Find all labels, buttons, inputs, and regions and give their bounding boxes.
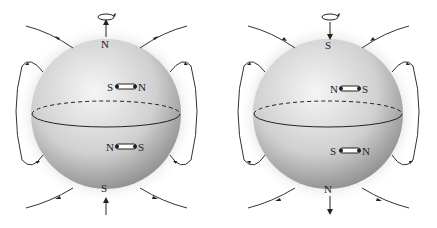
svg-text:S: S (107, 81, 113, 93)
svg-text:N: N (138, 81, 146, 93)
svg-text:S: S (330, 145, 336, 157)
svg-text:N: N (106, 141, 114, 153)
rotation-icon (322, 13, 340, 20)
pole-label-top: S (325, 39, 331, 51)
right-panel: S N N S S N (238, 13, 419, 212)
svg-text:N: N (362, 145, 370, 157)
svg-text:N: N (330, 83, 338, 95)
earth-sphere (31, 39, 181, 189)
svg-text:S: S (362, 83, 368, 95)
rotation-icon (98, 13, 116, 20)
geomagnetic-diagram: N S S N N (0, 0, 437, 228)
svg-text:S: S (138, 141, 144, 153)
pole-label-bottom: N (324, 183, 332, 195)
earth-sphere (253, 39, 403, 189)
pole-label-bottom: S (101, 182, 107, 194)
pole-label-top: N (101, 38, 109, 50)
left-panel: N S S N N (16, 13, 197, 215)
